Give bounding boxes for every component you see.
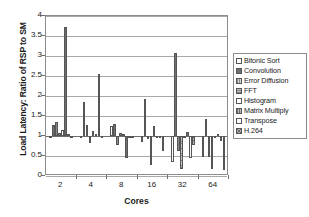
y-tick-mark	[41, 175, 45, 176]
legend-swatch-icon	[236, 128, 242, 134]
bar-bitonic-sort-32	[171, 136, 174, 162]
y-tick-label: 1	[16, 130, 42, 139]
bar-matrix-multiply-8	[125, 136, 128, 158]
bar-h-264-16	[162, 136, 165, 151]
legend-label: FFT	[244, 86, 257, 96]
bar-chart: Load Latency: Ratio of RSP to SM 00.511.…	[0, 0, 309, 217]
x-tick-label-2: 2	[47, 180, 73, 189]
bar-h-264-32	[192, 136, 195, 145]
legend-item-convolution[interactable]: Convolution	[236, 66, 304, 76]
x-tick-mark	[106, 175, 107, 179]
x-tick-label-64: 64	[200, 180, 226, 189]
bar-fft-32	[180, 136, 183, 169]
y-tick-label: 4	[16, 10, 42, 19]
bar-histogram-64	[214, 136, 217, 138]
bar-fft-4	[89, 136, 92, 143]
bar-convolution-8	[113, 124, 116, 136]
bar-bitonic-sort-2	[49, 136, 52, 138]
bar-error-diffusion-8	[116, 136, 119, 145]
bar-bitonic-sort-16	[141, 136, 144, 142]
legend-label: Convolution	[244, 66, 281, 76]
bar-fft-16	[150, 136, 153, 165]
bar-matrix-multiply-2	[64, 27, 67, 136]
x-tick-label-8: 8	[108, 180, 134, 189]
y-tick-label: 1.5	[16, 110, 42, 119]
gridline-3.5	[46, 36, 227, 37]
bar-h-264-8	[131, 136, 134, 138]
legend-item-bitonic-sort[interactable]: Bitonic Sort	[236, 56, 304, 66]
bar-bitonic-sort-64	[202, 136, 205, 157]
legend-label: Bitonic Sort	[244, 56, 280, 66]
legend-label: H.264	[244, 126, 263, 136]
x-tick-mark	[137, 175, 138, 179]
bar-h-264-64	[223, 136, 226, 170]
x-tick-mark	[198, 175, 199, 179]
legend-swatch-icon	[236, 68, 242, 74]
y-tick-label: 2.5	[16, 70, 42, 79]
legend-item-matrix-multiply[interactable]: Matrix Multiply	[236, 106, 304, 116]
bar-bitonic-sort-4	[80, 136, 83, 138]
legend-item-transpose[interactable]: Transpose	[236, 116, 304, 126]
y-tick-label: 3	[16, 50, 42, 59]
legend-item-h-264[interactable]: H.264	[236, 126, 304, 136]
gridline-2	[46, 96, 227, 97]
legend-label: Histogram	[244, 96, 276, 106]
bar-histogram-32	[183, 136, 186, 138]
gridline-1.5	[46, 116, 227, 117]
gridline-4	[46, 16, 227, 17]
bar-convolution-32	[174, 53, 177, 136]
legend-item-error-diffusion[interactable]: Error Diffusion	[236, 76, 304, 86]
x-tick-mark	[167, 175, 168, 179]
legend-swatch-icon	[236, 58, 242, 64]
bar-convolution-16	[144, 99, 147, 136]
bar-fft-64	[211, 136, 214, 169]
x-tick-mark	[228, 175, 229, 179]
x-axis-title: Cores	[45, 196, 228, 206]
x-tick-mark	[76, 175, 77, 179]
x-tick-label-32: 32	[169, 180, 195, 189]
y-tick-label: 3.5	[16, 30, 42, 39]
legend-label: Error Diffusion	[244, 76, 288, 86]
gridline-0.5	[46, 156, 227, 157]
legend-swatch-icon	[236, 98, 242, 104]
bar-transpose-4	[98, 74, 101, 136]
legend-item-fft[interactable]: FFT	[236, 86, 304, 96]
legend-swatch-icon	[236, 88, 242, 94]
legend-swatch-icon	[236, 118, 242, 124]
legend-label: Matrix Multiply	[244, 106, 288, 116]
plot-area	[45, 15, 228, 175]
x-tick-label-16: 16	[139, 180, 165, 189]
gridline-1	[46, 136, 227, 137]
x-tick-label-4: 4	[78, 180, 104, 189]
bar-convolution-64	[205, 119, 208, 136]
y-tick-label: 0.5	[16, 150, 42, 159]
legend: Bitonic SortConvolutionError DiffusionFF…	[233, 53, 307, 139]
bar-h-264-4	[101, 136, 104, 138]
y-tick-label: 0	[16, 170, 42, 179]
y-tick-label: 2	[16, 90, 42, 99]
gridline-2.5	[46, 76, 227, 77]
bar-histogram-16	[153, 126, 156, 136]
bar-error-diffusion-4	[86, 125, 89, 136]
legend-item-histogram[interactable]: Histogram	[236, 96, 304, 106]
gridline-3	[46, 56, 227, 57]
legend-swatch-icon	[236, 78, 242, 84]
legend-label: Transpose	[244, 116, 277, 126]
legend-swatch-icon	[236, 108, 242, 114]
bar-h-264-2	[70, 136, 73, 138]
